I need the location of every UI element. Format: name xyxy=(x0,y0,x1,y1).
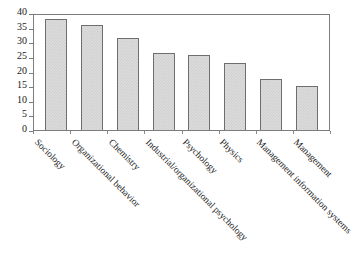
x-axis-label: Organizational behavior xyxy=(70,137,142,209)
plot-area xyxy=(33,14,330,131)
y-axis-tick-label: 10 xyxy=(17,95,27,105)
y-axis-tick-label: 35 xyxy=(17,22,27,32)
x-axis-labels: SociologyOrganizational behaviorChemistr… xyxy=(0,131,346,280)
x-axis-label: Sociology xyxy=(32,137,66,171)
bar xyxy=(188,55,210,130)
y-axis-tick-label: 15 xyxy=(17,80,27,90)
y-axis-tick-label: 30 xyxy=(17,36,27,46)
bar xyxy=(153,53,175,131)
y-axis-tick-label: 40 xyxy=(17,7,27,17)
x-axis-label: Physics xyxy=(218,137,246,165)
y-axis-tick-label: 20 xyxy=(17,66,27,76)
y-axis-tick-label: 5 xyxy=(22,109,27,119)
bar xyxy=(81,25,103,130)
figure-caption xyxy=(22,274,322,280)
bar xyxy=(45,19,67,130)
bar-series xyxy=(34,15,329,130)
y-axis: 0510152025303540 xyxy=(0,14,33,131)
y-axis-tick-label: 25 xyxy=(17,51,27,61)
x-axis-label: Psychology xyxy=(181,137,219,175)
bar xyxy=(260,79,282,130)
x-axis-label: Chemistry xyxy=(107,137,142,172)
bar xyxy=(117,38,139,130)
bar xyxy=(224,63,246,130)
bar xyxy=(296,86,318,130)
